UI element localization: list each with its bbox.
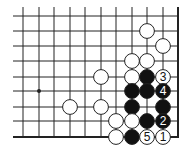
white-stone-icon — [140, 24, 155, 39]
white-stone-icon — [94, 100, 109, 115]
white-stone-move-5: 5 — [140, 130, 155, 145]
black-stone-move-2: 2 — [156, 114, 171, 129]
black-stone-icon — [140, 84, 155, 99]
white-stone-icon — [94, 70, 109, 85]
go-board: 34251 — [0, 0, 188, 154]
black-stone — [156, 100, 171, 115]
black-stone-icon — [125, 84, 140, 99]
white-stone — [140, 24, 155, 39]
go-board-grid: 34251 — [0, 0, 188, 154]
move-number-label: 4 — [160, 84, 167, 98]
black-stone — [125, 100, 140, 115]
black-stone-move-4: 4 — [156, 84, 171, 99]
star-points — [37, 89, 41, 93]
black-stone — [125, 130, 140, 145]
white-stone — [125, 54, 140, 69]
white-stone-icon — [109, 114, 124, 129]
white-stone — [109, 114, 124, 129]
white-stone — [140, 54, 155, 69]
black-stone-icon — [140, 70, 155, 85]
move-number-label: 2 — [160, 114, 167, 128]
move-number-label: 5 — [144, 130, 151, 144]
white-stone-move-1: 1 — [156, 130, 171, 145]
white-stone — [94, 100, 109, 115]
black-stone — [140, 114, 155, 129]
white-stone-icon — [140, 54, 155, 69]
white-stone — [63, 100, 78, 115]
white-stone-icon — [63, 100, 78, 115]
move-number-label: 3 — [160, 70, 167, 84]
white-stone-icon — [125, 114, 140, 129]
white-stone-icon — [125, 70, 140, 85]
black-stone — [140, 70, 155, 85]
black-stone-icon — [125, 100, 140, 115]
white-stone — [125, 114, 140, 129]
black-stone-icon — [156, 100, 171, 115]
white-stone — [125, 70, 140, 85]
white-stone — [109, 130, 124, 145]
white-stone — [156, 39, 171, 54]
white-stone-icon — [156, 39, 171, 54]
star-point-icon — [37, 89, 41, 93]
black-stone — [140, 84, 155, 99]
white-stone — [94, 70, 109, 85]
black-stone-icon — [125, 130, 140, 145]
white-stone-icon — [125, 54, 140, 69]
black-stone-icon — [140, 114, 155, 129]
move-number-label: 1 — [160, 130, 167, 144]
white-stone-move-3: 3 — [156, 70, 171, 85]
white-stone-icon — [109, 130, 124, 145]
black-stone — [125, 84, 140, 99]
